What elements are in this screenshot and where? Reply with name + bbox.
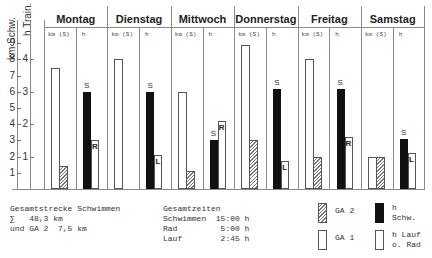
- tickmark: [17, 108, 21, 109]
- bar-ga1: [114, 59, 123, 189]
- tick-h: 4: [16, 53, 28, 64]
- col-header-h: h: [209, 31, 213, 38]
- col-header-km: km (S): [48, 31, 70, 38]
- km-h-divider: [76, 27, 77, 190]
- bar-label-r: R: [346, 139, 352, 148]
- tick-km: 1: [3, 167, 15, 178]
- bar-label-s: S: [338, 78, 343, 87]
- baseline: [12, 189, 424, 190]
- bar-label-l: L: [155, 157, 160, 166]
- day-label: Freitag: [298, 13, 361, 25]
- plot-left-line: [44, 20, 45, 190]
- tick-km: 3: [3, 134, 15, 145]
- tick-km: 8: [3, 53, 15, 64]
- col-header-h: h: [399, 31, 403, 38]
- km-h-divider: [139, 27, 140, 190]
- bar-swim-hours: [337, 89, 345, 189]
- tick-km: 9: [3, 37, 15, 48]
- km-h-divider: [393, 27, 394, 190]
- km-h-divider: [203, 27, 204, 190]
- legend-label-ga2: GA 2: [335, 206, 354, 216]
- bar-ga2: [186, 171, 195, 189]
- tick-km: 2: [3, 151, 15, 162]
- tick-h: 2: [16, 118, 28, 129]
- col-header-km: km (S): [365, 31, 387, 38]
- day-divider: [107, 6, 108, 190]
- day-divider: [171, 6, 172, 190]
- day-divider: [234, 6, 235, 190]
- bar-swim-hours: [146, 92, 154, 189]
- col-header-km: km (S): [302, 31, 324, 38]
- day-divider: [361, 6, 362, 190]
- bar-label-l: L: [409, 155, 414, 164]
- tickmark: [30, 92, 34, 93]
- time-summary: Gesamtzeiten Schwimmen 15:00 h Rad 5:00 …: [163, 204, 249, 244]
- bar-swim-hours: [210, 140, 218, 189]
- bar-ga2: [249, 140, 258, 189]
- bar-label-s: S: [84, 81, 89, 90]
- day-label: Samstag: [361, 13, 424, 25]
- legend-swatch-ga2: [318, 203, 327, 223]
- distance-summary: Gesamtstrecke Schwimmen ∑ 48,3 km und GA…: [10, 204, 120, 234]
- bar-label-s: S: [211, 129, 216, 138]
- tick-km: 6: [3, 86, 15, 97]
- tickmark: [17, 173, 21, 174]
- legend-swatch-run-bike: [375, 230, 384, 250]
- tickmark: [17, 43, 21, 44]
- km-h-divider: [266, 27, 267, 190]
- bar-label-s: S: [274, 78, 279, 87]
- h-axis-line: [30, 20, 31, 190]
- km-axis-line: [17, 20, 18, 190]
- bar-label-s: S: [401, 128, 406, 137]
- tick-km: 7: [3, 70, 15, 81]
- tick-h: 1: [16, 151, 28, 162]
- tick-km: 5: [3, 102, 15, 113]
- col-header-h: h: [82, 31, 86, 38]
- legend-swatch-swim: [375, 203, 384, 223]
- legend-label-swim: h Schw.: [392, 203, 416, 223]
- col-header-h: h: [335, 31, 339, 38]
- col-header-km: km (S): [238, 31, 260, 38]
- day-divider: [298, 6, 299, 190]
- day-label: Donnerstag: [234, 13, 297, 25]
- bar-ga2: [313, 157, 322, 189]
- tick-km: 4: [3, 118, 15, 129]
- day-label: Dienstag: [107, 13, 170, 25]
- bar-swim-hours: [400, 139, 408, 189]
- bar-swim-hours: [83, 92, 91, 189]
- tick-h: 3: [16, 86, 28, 97]
- tickmark: [30, 59, 34, 60]
- bar-label-s: S: [147, 81, 152, 90]
- bar-label-r: R: [219, 123, 225, 132]
- bar-swim-hours: [273, 89, 281, 189]
- day-divider: [424, 6, 425, 190]
- bar-ga2: [59, 166, 68, 189]
- tickmark: [30, 124, 34, 125]
- col-header-h: h: [145, 31, 149, 38]
- legend-label-run-bike: h Lauf o. Rad: [392, 230, 421, 250]
- tickmark: [17, 76, 21, 77]
- bar-label-l: L: [282, 163, 287, 172]
- col-header-h: h: [272, 31, 276, 38]
- col-header-km: km (S): [175, 31, 197, 38]
- legend-label-ga1: GA 1: [335, 233, 354, 243]
- day-label: Mittwoch: [171, 13, 234, 25]
- bar-ga2: [376, 157, 385, 189]
- day-label: Montag: [44, 13, 107, 25]
- legend-swatch-ga1: [318, 230, 327, 250]
- tickmark: [17, 140, 21, 141]
- km-h-divider: [329, 27, 330, 190]
- tickmark: [30, 157, 34, 158]
- y-axis-label-hours: h Train.: [22, 3, 33, 36]
- bar-label-r: R: [92, 142, 98, 151]
- col-header-km: km (S): [111, 31, 133, 38]
